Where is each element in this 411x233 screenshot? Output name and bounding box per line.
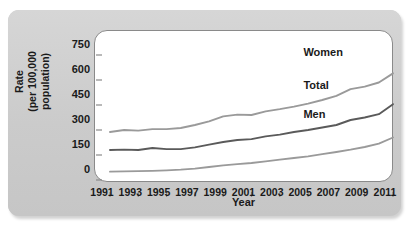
series-label-total: Total — [303, 79, 328, 91]
chart-panel: Rate (per 100,000 population) 0150300450… — [8, 10, 401, 216]
series-label-women: Women — [303, 46, 343, 58]
x-axis-title: Year — [94, 196, 393, 208]
series-line-women — [110, 73, 393, 132]
series-line-men — [110, 138, 393, 172]
figure-container: Rate (per 100,000 population) 0150300450… — [0, 0, 411, 233]
series-line-total — [110, 104, 393, 150]
series-label-men: Men — [303, 108, 325, 120]
